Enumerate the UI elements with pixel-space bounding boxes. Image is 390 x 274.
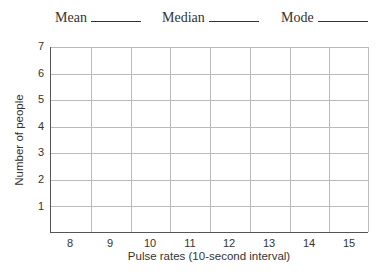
mean-blank[interactable]: [91, 9, 141, 22]
y-tick-3: 3: [30, 146, 44, 158]
y-tick-7: 7: [30, 40, 44, 52]
median-label: Median: [162, 10, 205, 25]
mode-field[interactable]: Mode: [281, 9, 368, 26]
x-axis-label: Pulse rates (10-second interval): [50, 250, 368, 262]
x-tick-10: 10: [135, 237, 165, 249]
gridline-x4: [210, 47, 211, 232]
y-tick-4: 4: [30, 120, 44, 132]
mode-label: Mode: [281, 10, 314, 25]
y-axis-label: Number of people: [13, 94, 25, 185]
x-tick-8: 8: [55, 237, 85, 249]
gridline-x7: [329, 47, 330, 232]
x-tick-15: 15: [334, 237, 364, 249]
gridline-x6: [290, 47, 291, 232]
median-field[interactable]: Median: [162, 9, 259, 26]
x-tick-11: 11: [175, 237, 205, 249]
gridline-x1: [91, 47, 92, 232]
x-tick-12: 12: [214, 237, 244, 249]
gridline-x3: [170, 47, 171, 232]
median-blank[interactable]: [209, 9, 259, 22]
mode-blank[interactable]: [318, 9, 368, 22]
y-tick-2: 2: [30, 173, 44, 185]
x-tick-9: 9: [95, 237, 125, 249]
y-tick-5: 5: [30, 93, 44, 105]
plot-area: [50, 47, 368, 233]
mean-field[interactable]: Mean: [55, 9, 141, 26]
y-tick-1: 1: [30, 200, 44, 212]
y-tick-6: 6: [30, 67, 44, 79]
x-tick-14: 14: [294, 237, 324, 249]
x-tick-13: 13: [254, 237, 284, 249]
gridline-x5: [250, 47, 251, 232]
mean-label: Mean: [55, 10, 87, 25]
gridline-x2: [131, 47, 132, 232]
gridline-x8: [368, 47, 369, 232]
